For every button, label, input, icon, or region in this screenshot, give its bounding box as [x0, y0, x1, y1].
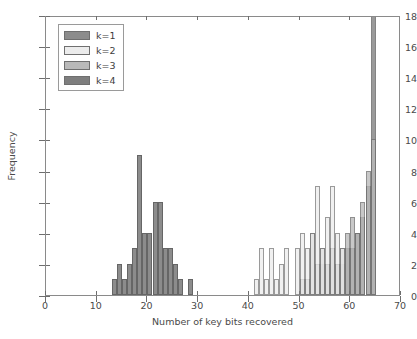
y-tick-label: 8	[383, 166, 417, 177]
legend-label: k=1	[96, 30, 116, 41]
x-tick-mark-top	[197, 16, 198, 20]
x-tick-mark-top	[299, 16, 300, 20]
x-tick-mark-inner	[96, 291, 97, 295]
y-tick-label: 6	[383, 197, 417, 208]
x-tick-label: 0	[42, 300, 48, 311]
legend-label: k=2	[96, 45, 116, 56]
x-tick-mark-top	[96, 16, 97, 20]
y-tick-mark	[39, 265, 45, 266]
y-tick-label: 14	[383, 73, 417, 84]
histogram-bar	[371, 139, 376, 295]
histogram-bar	[188, 279, 193, 295]
legend-swatch	[64, 76, 90, 85]
y-tick-mark	[39, 16, 45, 17]
y-tick-label: 12	[383, 104, 417, 115]
y-tick-label: 2	[383, 259, 417, 270]
y-tick-mark	[39, 140, 45, 141]
legend-label: k=4	[96, 75, 116, 86]
y-tick-label: 18	[383, 11, 417, 22]
legend-item: k=1	[64, 29, 116, 41]
histogram-bar	[284, 248, 289, 295]
y-tick-label: 10	[383, 135, 417, 146]
x-tick-label: 30	[191, 300, 203, 311]
y-tick-mark	[39, 109, 45, 110]
y-tick-label: 16	[383, 42, 417, 53]
legend-item: k=3	[64, 59, 116, 71]
y-tick-mark-inner	[46, 78, 50, 79]
legend-item: k=4	[64, 74, 116, 86]
legend-swatch	[64, 46, 90, 55]
x-tick-mark-top	[146, 16, 147, 20]
x-tick-label: 60	[343, 300, 355, 311]
y-tick-mark-inner	[46, 140, 50, 141]
y-tick-mark	[39, 234, 45, 235]
x-tick-label: 10	[90, 300, 102, 311]
y-tick-mark-inner	[46, 203, 50, 204]
x-tick-label: 50	[293, 300, 305, 311]
legend: k=1k=2k=3k=4	[58, 24, 124, 91]
x-tick-label: 70	[394, 300, 406, 311]
y-tick-mark	[39, 78, 45, 79]
x-tick-mark-inner	[45, 291, 46, 295]
y-tick-mark-inner	[46, 265, 50, 266]
x-tick-mark-inner	[248, 291, 249, 295]
y-tick-mark-inner	[46, 296, 50, 297]
legend-swatch	[64, 31, 90, 40]
x-tick-mark-inner	[197, 291, 198, 295]
x-axis-label: Number of key bits recovered	[45, 316, 400, 327]
y-axis-label: Frequency	[6, 131, 17, 180]
histogram-bar	[340, 248, 345, 295]
legend-swatch	[64, 61, 90, 70]
x-tick-label: 20	[140, 300, 152, 311]
x-tick-mark-top	[349, 16, 350, 20]
y-tick-mark-inner	[46, 109, 50, 110]
x-tick-label: 40	[242, 300, 254, 311]
y-tick-mark	[39, 47, 45, 48]
y-tick-mark-inner	[46, 16, 50, 17]
y-tick-mark	[39, 172, 45, 173]
histogram-bar	[178, 279, 183, 295]
x-tick-mark-inner	[400, 291, 401, 295]
legend-label: k=3	[96, 60, 116, 71]
y-tick-mark-inner	[46, 47, 50, 48]
y-tick-mark	[39, 203, 45, 204]
y-tick-label: 4	[383, 228, 417, 239]
x-tick-mark-top	[248, 16, 249, 20]
y-tick-mark-inner	[46, 234, 50, 235]
y-axis-label-wrapper: Frequency	[13, 0, 14, 339]
legend-item: k=2	[64, 44, 116, 56]
histogram-figure: Frequency 024681012141618 01020304050607…	[0, 0, 417, 339]
y-tick-mark-inner	[46, 172, 50, 173]
